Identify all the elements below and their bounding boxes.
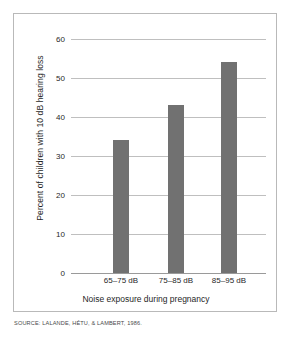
gridline (71, 273, 266, 274)
bar-chart: Percent of children with 10 dB hearing l… (14, 14, 278, 313)
y-tick-label: 50 (45, 74, 65, 83)
y-tick-label: 40 (45, 113, 65, 122)
plot-area (71, 39, 266, 273)
figure-frame: Percent of children with 10 dB hearing l… (13, 13, 277, 312)
bar (113, 140, 129, 273)
y-tick-label: 0 (45, 269, 65, 278)
x-tick-label: 75–85 dB (146, 276, 206, 285)
y-tick-label: 10 (45, 230, 65, 239)
bar (221, 62, 237, 273)
source-note: SOURCE: LALANDE, HÉTU, & LAMBERT, 1986. (14, 320, 142, 326)
x-axis-title: Noise exposure during pregnancy (14, 294, 278, 304)
x-tick-label: 85–95 dB (199, 276, 259, 285)
y-tick-label: 30 (45, 152, 65, 161)
bar (168, 105, 184, 273)
y-axis-tick-labels: 0102030405060 (43, 14, 65, 313)
x-tick-label: 65–75 dB (91, 276, 151, 285)
y-tick-label: 60 (45, 35, 65, 44)
bar-series (71, 39, 266, 273)
y-tick-label: 20 (45, 191, 65, 200)
x-axis-tick-labels: 65–75 dB75–85 dB85–95 dB (71, 276, 266, 290)
